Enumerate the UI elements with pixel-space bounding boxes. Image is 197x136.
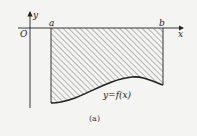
origin-label: O	[20, 29, 28, 39]
bound-label-b: b	[159, 18, 165, 28]
curve-label: y=f(x)	[102, 90, 132, 100]
x-axis-label: x	[178, 29, 183, 39]
area-diagram: y x O a b y=f(x) (a)	[0, 0, 197, 136]
figure-caption: (a)	[89, 114, 100, 123]
y-axis-label: y	[32, 10, 39, 20]
bound-label-a: a	[49, 18, 54, 28]
